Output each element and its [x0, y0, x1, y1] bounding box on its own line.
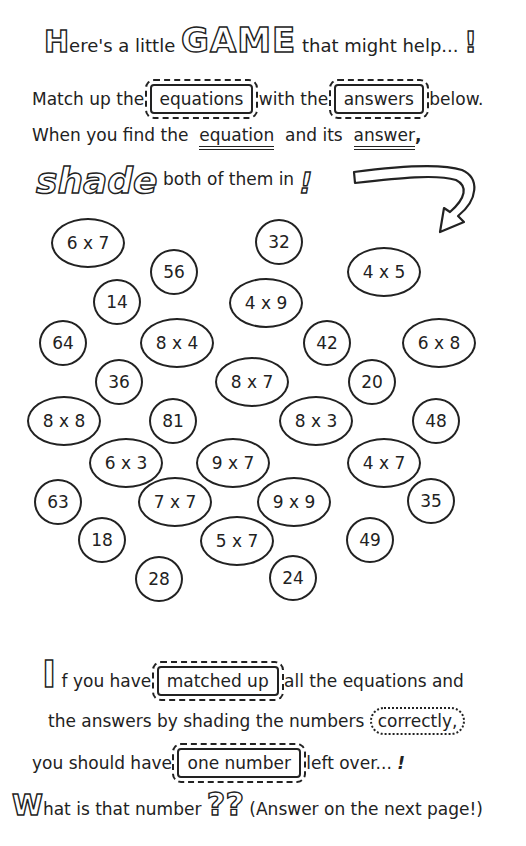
equation-oval[interactable]: 8 x 7 [215, 357, 289, 407]
decorative-capital-i: I [42, 652, 56, 696]
answer-oval[interactable]: 28 [135, 556, 183, 602]
answer-oval[interactable]: 24 [269, 555, 317, 601]
answer-oval[interactable]: 49 [346, 517, 394, 563]
equation-oval[interactable]: 8 x 8 [27, 396, 101, 446]
outro-line-1: I f you have matched up all the equation… [42, 652, 464, 696]
answer-oval[interactable]: 63 [34, 479, 82, 525]
equation-oval[interactable]: 9 x 7 [196, 438, 270, 488]
equation-oval[interactable]: 8 x 4 [140, 318, 214, 368]
equation-oval[interactable]: 7 x 7 [138, 477, 212, 527]
answer-oval[interactable]: 42 [303, 320, 351, 366]
answer-oval[interactable]: 14 [93, 279, 141, 325]
outro-line-3: you should have one number left over... … [32, 748, 405, 778]
one-number-burst: one number [177, 748, 300, 778]
equation-oval[interactable]: 4 x 9 [229, 278, 303, 328]
answer-oval[interactable]: 48 [412, 398, 460, 444]
outro-text: hat is that number [43, 799, 202, 819]
equation-oval[interactable]: 6 x 8 [402, 318, 476, 368]
decorative-capital-w: W [12, 789, 43, 822]
equation-oval[interactable]: 5 x 7 [200, 516, 274, 566]
equation-oval[interactable]: 6 x 3 [89, 438, 163, 488]
question-marks: ?? [207, 785, 244, 823]
outro-text: f you have [62, 671, 152, 691]
outro-line-2: the answers by shading the numbers corre… [48, 707, 465, 735]
outro-text: the answers by shading the numbers [48, 711, 364, 731]
outro-text: (Answer on the next page!) [249, 799, 483, 819]
answer-oval[interactable]: 18 [78, 517, 126, 563]
equation-oval[interactable]: 6 x 7 [51, 218, 125, 268]
answer-oval[interactable]: 64 [39, 320, 87, 366]
answer-oval[interactable]: 56 [150, 249, 198, 295]
outro-text: you should have [32, 753, 172, 773]
equation-oval[interactable]: 8 x 3 [279, 396, 353, 446]
answer-oval[interactable]: 32 [255, 219, 303, 265]
outro-line-4: What is that number ?? (Answer on the ne… [12, 785, 483, 823]
outro-text: all the equations and [284, 671, 464, 691]
answer-oval[interactable]: 36 [95, 359, 143, 405]
outro-text: left over... [306, 753, 392, 773]
answer-oval[interactable]: 35 [407, 478, 455, 524]
answer-oval[interactable]: 20 [348, 359, 396, 405]
answer-oval[interactable]: 81 [149, 398, 197, 444]
exclamation-mark: ! [397, 753, 405, 773]
equation-oval[interactable]: 4 x 7 [347, 438, 421, 488]
equation-oval[interactable]: 9 x 9 [257, 477, 331, 527]
equation-oval[interactable]: 4 x 5 [347, 247, 421, 297]
correctly-dotted: correctly, [370, 707, 466, 735]
matched-up-burst: matched up [157, 666, 279, 696]
